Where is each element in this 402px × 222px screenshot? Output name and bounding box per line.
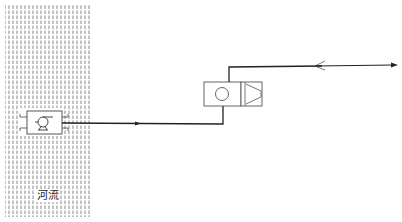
pump-housing xyxy=(27,111,62,134)
unit-box-right xyxy=(241,82,262,106)
unit-box-left xyxy=(204,82,241,106)
flow-arrow-icon xyxy=(135,122,141,126)
pipe-outlet xyxy=(315,63,398,68)
treatment-unit xyxy=(204,82,262,106)
pipe-unit-to-valve xyxy=(229,66,322,82)
process-flow-diagram: 河流 xyxy=(0,0,402,222)
river-label: 河流 xyxy=(36,190,60,202)
outlet-arrow-icon xyxy=(391,63,398,68)
intake-pump xyxy=(18,108,68,136)
river-label-container: 河流 xyxy=(36,190,66,204)
